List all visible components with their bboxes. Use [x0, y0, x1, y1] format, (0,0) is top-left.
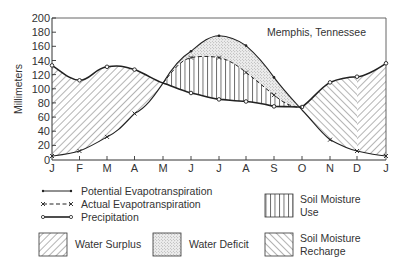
x-tick-sep: S — [270, 162, 277, 174]
legend-label-recharge-1: Soil Moisture — [300, 232, 361, 244]
x-axis: J F M A M J J A S O N D J — [49, 156, 389, 174]
x-tick-may: M — [158, 162, 167, 174]
legend: Potential Evapotranspiration Actual Evap… — [39, 185, 361, 257]
x-tick-mar: M — [102, 162, 111, 174]
x-tick-jun: J — [188, 162, 194, 174]
legend-label-soil-use-1: Soil Moisture — [300, 193, 361, 205]
x-tick-feb: F — [76, 162, 83, 174]
x-tick-jan: J — [49, 162, 55, 174]
legend-label-ae: Actual Evapotranspiration — [81, 198, 201, 210]
legend-item-ae: Actual Evapotranspiration — [41, 198, 201, 210]
area-water-surplus-winter — [357, 63, 386, 156]
y-axis: 200 180 160 140 120 100 80 60 40 20 0 Mi… — [12, 12, 56, 166]
y-axis-label: Millimeters — [12, 64, 24, 114]
x-tick-aug: A — [242, 162, 250, 174]
legend-label-precip: Precipitation — [81, 211, 139, 223]
y-tick-80: 80 — [38, 97, 50, 109]
legend-label-deficit: Water Deficit — [189, 238, 249, 250]
y-tick-40: 40 — [38, 125, 50, 137]
x-tick-oct: O — [298, 162, 307, 174]
x-tick-apr: A — [131, 162, 139, 174]
x-tick-dec: D — [353, 162, 361, 174]
legend-label-surplus: Water Surplus — [75, 238, 141, 250]
x-tick-jul: J — [216, 162, 222, 174]
legend-label-recharge-2: Recharge — [300, 245, 346, 257]
legend-item-soil-moisture-recharge: Soil Moisture Recharge — [265, 232, 361, 257]
chart-title: Memphis, Tennessee — [267, 26, 366, 38]
y-tick-20: 20 — [38, 139, 50, 151]
y-tick-180: 180 — [32, 26, 50, 38]
legend-item-pe: Potential Evapotranspiration — [42, 185, 213, 197]
y-tick-140: 140 — [32, 55, 50, 67]
y-tick-60: 60 — [38, 111, 50, 123]
y-tick-120: 120 — [32, 69, 50, 81]
y-tick-100: 100 — [32, 83, 50, 95]
area-water-surplus-spring — [52, 65, 163, 156]
legend-item-precip: Precipitation — [41, 211, 139, 223]
x-tick-jan-end: J — [383, 162, 389, 174]
y-tick-160: 160 — [32, 40, 50, 52]
legend-label-pe: Potential Evapotranspiration — [81, 185, 212, 197]
legend-label-soil-use-2: Use — [300, 206, 319, 218]
legend-item-water-deficit: Water Deficit — [153, 233, 249, 256]
legend-item-water-surplus: Water Surplus — [39, 233, 141, 256]
y-tick-200: 200 — [32, 12, 50, 24]
x-tick-nov: N — [326, 162, 334, 174]
legend-item-soil-moisture-use: Soil Moisture Use — [265, 193, 361, 218]
water-budget-chart: 200 180 160 140 120 100 80 60 40 20 0 Mi… — [0, 0, 399, 271]
shaded-areas — [52, 36, 386, 156]
